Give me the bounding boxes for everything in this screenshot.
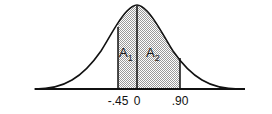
region-label-a1-subscript: 1 [128,53,133,63]
region-label-a2-base: A [146,45,155,60]
region-label-a1-base: A [119,45,128,60]
normal-curve-figure: A1 A2 -.45 0 .90 [0,0,272,114]
x-tick-label-zero: 0 [127,95,147,107]
region-label-a2-subscript: 2 [155,53,160,63]
x-tick-label-090: .90 [163,95,197,107]
region-label-a1: A1 [119,46,133,63]
region-label-a2: A2 [146,46,160,63]
